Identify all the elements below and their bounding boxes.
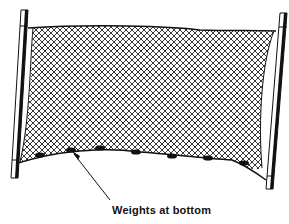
weights-label: Weights at bottom: [112, 204, 211, 216]
annotation-arrow: [72, 151, 110, 200]
seine-net-diagram: Weights at bottom: [0, 0, 289, 224]
net-illustration: [0, 0, 289, 224]
net-mesh: [0, 0, 289, 224]
